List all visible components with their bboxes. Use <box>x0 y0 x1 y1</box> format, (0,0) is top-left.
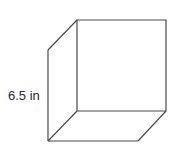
cube-bottom-right-diagonal <box>138 111 166 141</box>
cube-back-face <box>77 20 166 111</box>
cube-bottom-left-diagonal <box>48 111 77 141</box>
cube-diagram <box>0 0 177 150</box>
edge-length-label: 6.5 in <box>8 88 40 104</box>
cube-top-left-diagonal <box>48 20 77 50</box>
